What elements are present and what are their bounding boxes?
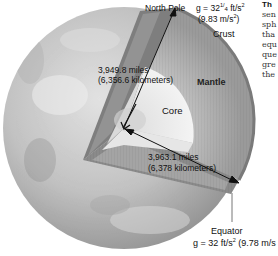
earth-cutaway-graphic <box>0 0 278 256</box>
side-text-line: sen <box>262 10 277 20</box>
side-text-line: the <box>262 70 277 80</box>
north-gravity-unit: ft/s <box>228 3 242 13</box>
mantle-label: Mantle <box>197 77 226 87</box>
side-text-line: gre <box>262 60 277 70</box>
side-text-line: tha <box>262 30 277 40</box>
north-gravity-exponent: 2 <box>242 2 245 8</box>
north-gravity-metric-close: ) <box>237 14 240 24</box>
side-text-line: equ <box>262 40 277 50</box>
polar-radius-miles-label: 3,949.8 miles <box>98 65 149 75</box>
equatorial-radius-miles-label: 3,963.1 miles <box>148 152 199 162</box>
north-gravity-metric-value: (9.83 m/s <box>198 14 233 24</box>
north-gravity-value: g = 32 <box>196 3 220 13</box>
equatorial-radius-km-label: (6,378 kilometers) <box>148 163 216 173</box>
equator-gravity-metric: (9.78 m/s <box>236 238 276 248</box>
equator-gravity-label: g = 32 ft/s2 (9.78 m/s <box>193 238 276 248</box>
side-text-line: que <box>262 50 277 60</box>
north-pole-label: North Pole <box>145 3 185 13</box>
side-text-column: Th sen sph tha equ que gre the <box>262 0 277 80</box>
polar-radius-km-label: (6,356.6 kilometers) <box>98 75 173 85</box>
north-gravity-label: g = 321/4 ft/s2 <box>196 3 245 14</box>
equator-gravity-value: g = 32 ft/s <box>193 238 233 248</box>
side-text-line: Th <box>262 0 277 10</box>
earth-diagram: North Pole g = 321/4 ft/s2 (9.83 m/s2) C… <box>0 0 278 256</box>
core-label: Core <box>162 106 183 116</box>
north-gravity-metric-label: (9.83 m/s2) <box>198 14 239 24</box>
crust-label: Crust <box>213 29 235 39</box>
side-text-line: sph <box>262 20 277 30</box>
equator-label: Equator <box>211 226 243 236</box>
